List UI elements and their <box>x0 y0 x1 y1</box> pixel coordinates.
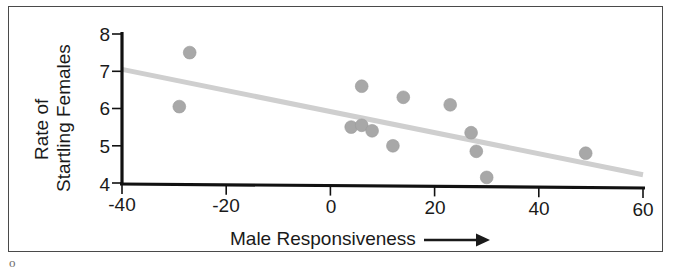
data-point <box>480 171 493 184</box>
data-point <box>579 147 592 160</box>
y-axis-title-line1: Rate of <box>31 98 52 160</box>
data-point <box>444 98 457 111</box>
x-tick-label-40: 40 <box>528 198 549 219</box>
data-point <box>465 126 478 139</box>
x-tick-label-0: 0 <box>326 196 337 217</box>
data-point <box>387 139 400 152</box>
x-axis-title: Male Responsiveness <box>230 228 416 249</box>
data-points-group <box>173 46 592 184</box>
y-tick-label-4: 4 <box>99 174 110 195</box>
x-tick-label-20: 20 <box>424 197 445 218</box>
x-axis-line <box>120 184 645 188</box>
x-tick-label-neg40: -40 <box>108 194 135 215</box>
data-point <box>183 46 196 59</box>
x-tick-label-60: 60 <box>632 199 653 220</box>
data-point <box>355 80 368 93</box>
y-tick-label-7: 7 <box>99 61 110 82</box>
y-tick-label-8: 8 <box>99 24 110 45</box>
y-tick-label-6: 6 <box>99 98 110 119</box>
data-point <box>366 124 379 137</box>
y-axis-title-line2: Startling Females <box>53 44 74 192</box>
trend-line <box>122 69 643 174</box>
data-point <box>470 145 483 158</box>
y-tick-label-5: 5 <box>99 136 110 157</box>
data-point <box>397 91 410 104</box>
figure-container: 8 7 6 5 4 -40 -20 0 20 40 60 Male Respon… <box>0 0 674 277</box>
page-margin-mark: o <box>9 256 16 269</box>
scatter-plot: 8 7 6 5 4 -40 -20 0 20 40 60 Male Respon… <box>0 0 674 277</box>
x-axis-arrow-icon <box>424 234 490 247</box>
x-tick-label-neg20: -20 <box>212 195 239 216</box>
data-point <box>173 100 186 113</box>
